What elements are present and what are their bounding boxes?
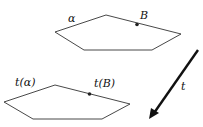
point-t-b [88,92,92,96]
label-b: B [139,9,148,22]
label-t-b: t(B) [94,77,115,90]
label-alpha: α [68,12,76,25]
label-t: t [181,80,186,93]
translation-diagram: α B t(α) t(B) t [0,0,203,127]
label-t-alpha: t(α) [15,76,35,89]
plane-t-alpha [4,85,130,119]
translation-arrow-icon [149,50,198,119]
point-b [135,23,139,27]
